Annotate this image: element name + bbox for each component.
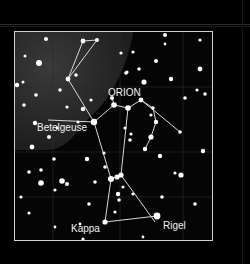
star-label-kappa: Kappa [71, 224, 100, 234]
star-chart-frame: ORION Betelgeuse Rigel Kappa [14, 31, 213, 241]
star-label-rigel: Rigel [163, 221, 186, 231]
right-edge-line [242, 0, 243, 264]
top-scanline-2 [0, 26, 250, 27]
star-chart [15, 32, 213, 241]
constellation-title: ORION [108, 88, 141, 98]
star-label-betelgeuse: Betelgeuse [37, 123, 87, 133]
top-scanline [0, 24, 250, 25]
